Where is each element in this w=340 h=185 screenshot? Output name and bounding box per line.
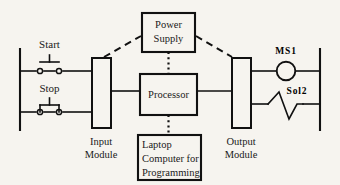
- solenoid-symbol[interactable]: [268, 92, 303, 119]
- output-module[interactable]: [232, 58, 251, 128]
- motor-starter-coil[interactable]: [277, 62, 296, 81]
- output-module-label-line1: Output: [226, 136, 255, 147]
- laptop-label-line2: Computer for: [142, 153, 199, 164]
- laptop-label-line1: Laptop: [142, 139, 172, 150]
- power-supply-label-line2: Supply: [154, 33, 185, 44]
- input-module-label-line1: Input: [90, 136, 112, 147]
- input-module[interactable]: [92, 58, 111, 128]
- start-label: Start: [39, 38, 60, 50]
- power-to-output-dashed-link: [196, 36, 232, 57]
- stop-label: Stop: [39, 82, 60, 94]
- laptop-label-line3: Programming: [142, 167, 200, 178]
- output-module-label-line2: Module: [225, 149, 258, 160]
- motor-starter-label: MS1: [275, 46, 297, 56]
- plc-wiring-diagram: Start Stop Input Module: [0, 0, 340, 185]
- processor-label: Processor: [148, 89, 189, 100]
- solenoid-label: Sol2: [286, 86, 307, 96]
- power-supply-label-line1: Power: [155, 19, 182, 30]
- input-module-label-line2: Module: [85, 149, 118, 160]
- power-to-input-dashed-link: [104, 36, 141, 57]
